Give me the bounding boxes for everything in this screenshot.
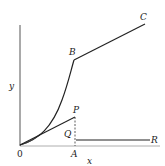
label-C: C <box>140 12 147 22</box>
label-origin: 0 <box>17 149 23 159</box>
label-Q: Q <box>64 129 72 139</box>
label-P: P <box>72 105 80 115</box>
line-B-C <box>74 24 145 60</box>
label-A: A <box>70 149 78 159</box>
diagram-canvas: B C P Q A R x y 0 <box>0 0 165 166</box>
label-R: R <box>150 135 158 145</box>
label-B: B <box>68 47 76 57</box>
label-x-axis: x <box>87 156 92 166</box>
label-y-axis: y <box>8 81 15 91</box>
